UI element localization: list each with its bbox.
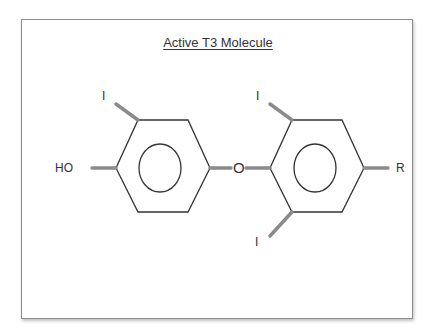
ring2-aromatic-circle bbox=[294, 144, 336, 192]
ring2-bottom-iodine-bond bbox=[270, 212, 292, 236]
phenol-ring bbox=[116, 120, 210, 212]
ether-oxygen-label: O bbox=[233, 159, 245, 176]
ring1-hexagon bbox=[116, 120, 210, 212]
r-group-label: R bbox=[396, 161, 405, 175]
ring2-top-iodine-bond bbox=[270, 104, 292, 120]
ring2-hexagon bbox=[270, 120, 364, 212]
hydroxyl-label: HO bbox=[55, 161, 73, 175]
ring1-iodine-label: I bbox=[102, 89, 105, 103]
ring2-bottom-iodine-label: I bbox=[255, 235, 258, 249]
ring2-top-iodine-label: I bbox=[256, 89, 259, 103]
ring1-aromatic-circle bbox=[139, 144, 181, 192]
t3-molecule-structure: I HO O I I R bbox=[0, 0, 436, 336]
tyrosyl-ring bbox=[270, 120, 364, 212]
ring1-iodine-bond bbox=[116, 104, 138, 120]
